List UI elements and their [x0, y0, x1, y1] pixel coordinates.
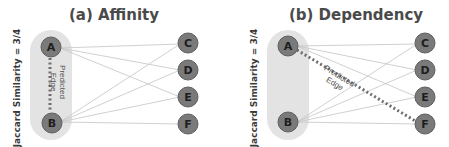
side-label: Jaccard Similarity = 3/4	[249, 29, 259, 147]
svg-text:D: D	[183, 64, 192, 77]
svg-text:E: E	[184, 91, 192, 104]
predicted-edge	[297, 50, 417, 122]
node-D: D	[415, 60, 435, 80]
svg-text:C: C	[184, 37, 192, 50]
svg-text:A: A	[284, 40, 293, 53]
node-A: A	[41, 37, 61, 57]
node-E: E	[178, 87, 198, 107]
svg-text:E: E	[421, 91, 429, 104]
panel-dependency: (b) Dependency Jaccard Similarity = 3/4 …	[249, 6, 435, 147]
node-C: C	[415, 33, 435, 53]
svg-text:F: F	[421, 118, 429, 131]
svg-text:A: A	[47, 41, 56, 54]
svg-text:D: D	[420, 64, 429, 77]
svg-text:B: B	[284, 116, 292, 129]
figure: (a) Affinity Jaccard Similarity = 3/4 Pr…	[0, 0, 449, 147]
svg-text:B: B	[48, 117, 56, 130]
node-F: F	[178, 114, 198, 134]
node-C: C	[178, 33, 198, 53]
side-label: Jaccard Similarity = 3/4	[12, 29, 22, 147]
node-B: B	[278, 112, 298, 132]
node-B: B	[42, 113, 62, 133]
svg-text:C: C	[421, 37, 429, 50]
edges	[60, 44, 180, 124]
edges	[297, 44, 417, 124]
node-F: F	[415, 114, 435, 134]
node-E: E	[415, 87, 435, 107]
panel-affinity: (a) Affinity Jaccard Similarity = 3/4 Pr…	[12, 6, 198, 147]
svg-text:F: F	[184, 118, 192, 131]
svg-text:Edge: Edge	[49, 73, 58, 92]
panel-title: (b) Dependency	[289, 6, 423, 24]
panel-title: (a) Affinity	[69, 6, 159, 24]
svg-text:Predicted: Predicted	[58, 65, 67, 99]
node-A: A	[278, 36, 298, 56]
node-D: D	[178, 60, 198, 80]
